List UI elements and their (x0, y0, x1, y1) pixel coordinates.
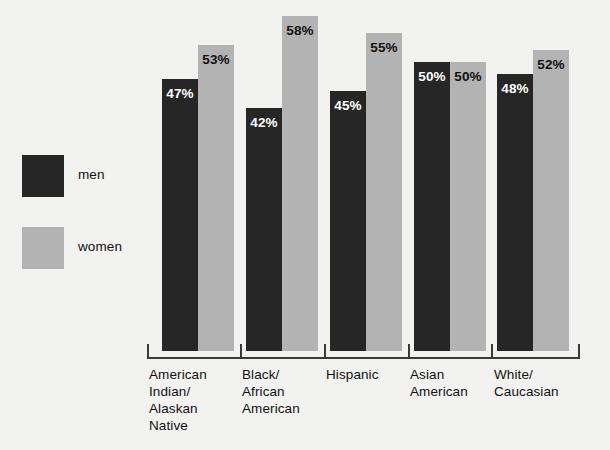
axis-tick (147, 344, 149, 359)
bar-value-men-1: 42% (246, 115, 282, 130)
bar-value-women-3: 50% (450, 69, 486, 84)
axis-line (147, 357, 580, 359)
bar-value-men-0: 47% (162, 86, 198, 101)
bar-value-men-2: 45% (330, 98, 366, 113)
category-label-2: Hispanic (326, 366, 379, 383)
category-label-0: American Indian/ Alaskan Native (149, 366, 207, 434)
bar-value-women-1: 58% (282, 23, 318, 38)
bar-women-1 (282, 16, 318, 351)
bar-men-0 (162, 79, 198, 351)
bar-men-4 (497, 74, 533, 351)
axis-tick (324, 344, 326, 359)
bar-chart: men women 47%42%45%50%48%53%58%55%50%52%… (0, 0, 610, 450)
bar-value-women-2: 55% (366, 40, 402, 55)
bar-men-3 (414, 62, 450, 351)
axis-tick (240, 344, 242, 359)
bar-value-women-4: 52% (533, 57, 569, 72)
axis-tick (408, 344, 410, 359)
bar-value-men-4: 48% (497, 81, 533, 96)
bar-value-men-3: 50% (414, 69, 450, 84)
category-label-4: White/ Caucasian (494, 366, 559, 400)
bar-women-4 (533, 50, 569, 351)
bar-women-3 (450, 62, 486, 351)
axis-tick (491, 344, 493, 359)
plot-area: 47%42%45%50%48%53%58%55%50%52%American I… (0, 0, 610, 450)
axis-tick (578, 344, 580, 359)
bar-women-2 (366, 33, 402, 351)
category-label-1: Black/ African American (242, 366, 300, 417)
bar-women-0 (198, 45, 234, 351)
category-label-3: Asian American (410, 366, 468, 400)
bar-men-2 (330, 91, 366, 351)
bar-men-1 (246, 108, 282, 351)
bar-value-women-0: 53% (198, 52, 234, 67)
